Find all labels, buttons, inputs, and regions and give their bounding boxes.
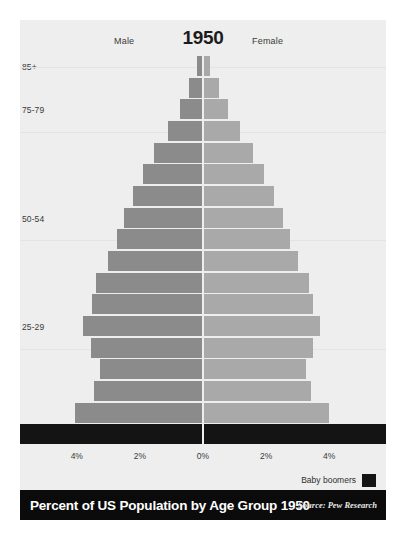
male-half — [20, 251, 203, 271]
male-bar — [91, 338, 203, 358]
female-bar — [203, 403, 329, 423]
x-axis-tick-label: 2% — [260, 451, 272, 461]
male-half — [20, 56, 203, 76]
female-bar — [203, 164, 264, 184]
female-half — [203, 316, 386, 336]
male-bar — [75, 403, 203, 423]
pyramid-plot — [20, 56, 386, 446]
female-half — [203, 273, 386, 293]
male-bar — [189, 78, 203, 98]
female-half — [203, 208, 386, 228]
male-half — [20, 273, 203, 293]
female-half — [203, 56, 386, 76]
female-half — [203, 403, 386, 423]
female-half — [203, 294, 386, 314]
male-half — [20, 316, 203, 336]
male-bar — [92, 294, 203, 314]
footer-source: Source: Pew Research — [298, 500, 377, 510]
male-half — [20, 99, 203, 119]
female-half — [203, 186, 386, 206]
chart-header: Male 1950 Female — [20, 20, 386, 60]
female-bar — [203, 229, 290, 249]
female-bar — [203, 78, 219, 98]
male-bar — [154, 143, 203, 163]
female-half — [203, 338, 386, 358]
female-half — [203, 78, 386, 98]
male-half — [20, 164, 203, 184]
center-axis-line — [202, 56, 204, 446]
female-half — [203, 359, 386, 379]
male-half — [20, 359, 203, 379]
footer-bar: Percent of US Population by Age Group 19… — [20, 490, 386, 520]
male-half — [20, 229, 203, 249]
female-half — [203, 424, 386, 444]
male-half — [20, 381, 203, 401]
male-bar — [124, 208, 203, 228]
male-half — [20, 338, 203, 358]
male-bar — [20, 424, 203, 444]
female-bar — [203, 424, 386, 444]
x-axis-tick-label: 4% — [323, 451, 335, 461]
male-half — [20, 78, 203, 98]
male-bar — [168, 121, 203, 141]
male-half — [20, 121, 203, 141]
female-bar — [203, 186, 274, 206]
female-bar — [203, 143, 253, 163]
female-bar — [203, 208, 283, 228]
female-half — [203, 381, 386, 401]
legend: Baby boomers — [301, 472, 376, 488]
male-half — [20, 424, 203, 444]
female-half — [203, 164, 386, 184]
female-half — [203, 99, 386, 119]
male-half — [20, 294, 203, 314]
x-axis-tick-label: 0% — [197, 451, 209, 461]
chart-card: Male 1950 Female 85+75-7950-5425-290 4%2… — [20, 20, 386, 520]
chart-year-title: 1950 — [20, 27, 386, 49]
male-bar — [180, 99, 203, 119]
female-half — [203, 121, 386, 141]
female-bar — [203, 359, 306, 379]
female-bar — [203, 294, 313, 314]
female-half — [203, 229, 386, 249]
x-axis-tick-label: 4% — [71, 451, 83, 461]
male-bar — [83, 316, 203, 336]
female-half — [203, 143, 386, 163]
female-bar — [203, 99, 228, 119]
male-bar — [100, 359, 203, 379]
female-side-label: Female — [252, 36, 283, 46]
male-bar — [108, 251, 203, 271]
female-bar — [203, 273, 309, 293]
female-bar — [203, 381, 311, 401]
x-axis: 4%2%0%2%4% — [20, 448, 386, 466]
female-bar — [203, 56, 210, 76]
female-bar — [203, 121, 240, 141]
legend-label: Baby boomers — [301, 475, 356, 485]
male-bar — [143, 164, 203, 184]
legend-swatch-baby-boomers — [362, 474, 376, 487]
male-half — [20, 186, 203, 206]
footer-title: Percent of US Population by Age Group 19… — [30, 498, 310, 513]
male-bar — [117, 229, 203, 249]
male-half — [20, 143, 203, 163]
female-bar — [203, 316, 320, 336]
female-half — [203, 251, 386, 271]
male-bar — [94, 381, 203, 401]
male-bar — [133, 186, 203, 206]
male-half — [20, 403, 203, 423]
x-axis-tick-label: 2% — [134, 451, 146, 461]
female-bar — [203, 251, 298, 271]
male-half — [20, 208, 203, 228]
female-bar — [203, 338, 313, 358]
male-bar — [96, 273, 203, 293]
